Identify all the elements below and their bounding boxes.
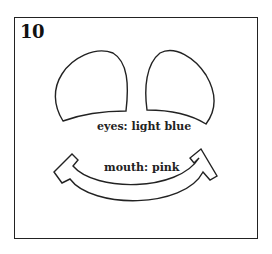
eyes-color-label: eyes: light blue [97, 120, 191, 133]
left-eye-shape [55, 51, 127, 121]
mouth-shape [54, 149, 217, 201]
mouth-color-label: mouth: pink [104, 161, 179, 174]
right-eye-shape [146, 51, 214, 124]
